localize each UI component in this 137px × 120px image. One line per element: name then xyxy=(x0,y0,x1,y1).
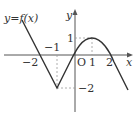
y-axis-label: y xyxy=(65,9,73,22)
x-tick-minus1: −1 xyxy=(44,41,60,54)
y-tick-1: 1 xyxy=(67,32,74,45)
y-tick-minus2: −2 xyxy=(78,82,94,95)
x-tick-2: 2 xyxy=(106,56,113,69)
x-axis-label: x xyxy=(126,56,133,69)
y-axis-arrow-icon xyxy=(73,9,78,15)
function-label: y=f(x) xyxy=(3,12,38,25)
function-graph: y=f(x) y x O −2 −1 1 2 1 −2 xyxy=(0,0,137,120)
origin-label: O xyxy=(77,56,86,69)
x-tick-1: 1 xyxy=(89,56,96,69)
x-tick-minus2: −2 xyxy=(22,56,38,69)
